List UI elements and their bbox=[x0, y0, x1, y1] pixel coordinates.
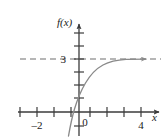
function-graph-figure: f(x) x 3 –2 0 4 bbox=[0, 0, 167, 138]
x-tick-label-neg2: –2 bbox=[31, 119, 43, 131]
plot-canvas: f(x) x 3 –2 0 4 bbox=[0, 0, 167, 138]
y-axis-label: f(x) bbox=[57, 16, 73, 29]
origin-label: 0 bbox=[82, 116, 88, 128]
x-axis-label: x bbox=[151, 111, 157, 123]
x-tick-label-4: 4 bbox=[138, 119, 144, 131]
y-tick-label-3: 3 bbox=[61, 53, 67, 65]
